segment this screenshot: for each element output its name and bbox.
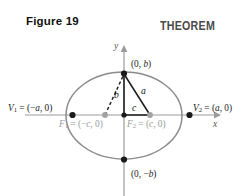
point-covertex-top	[121, 70, 127, 76]
point-vertex-right	[186, 112, 192, 118]
label-vertex-left: V1 = (−a, 0)	[8, 104, 52, 114]
point-focus-right	[147, 112, 153, 118]
y-axis-arrowhead	[121, 45, 128, 52]
point-vertex-left	[69, 112, 75, 118]
y-axis-label: y	[114, 42, 118, 52]
label-covertex-bottom: (0, −b)	[131, 170, 156, 179]
label-focus-right: F2 = (c, 0)	[127, 120, 166, 130]
ellipse-theorem-figure: Figure 19 THEOREM y x (0, b) (0, −b) V1 …	[0, 0, 245, 196]
ellipse-diagram-canvas	[0, 0, 245, 196]
segment-a-hypotenuse	[124, 74, 150, 115]
triangle-label-b: b	[114, 90, 119, 100]
label-vertex-right: V2 = (a, 0)	[193, 104, 232, 114]
label-covertex-top: (0, b)	[131, 60, 151, 69]
triangle-label-c: c	[132, 103, 136, 113]
label-focus-left: F1 = (−c, 0)	[59, 120, 103, 130]
point-focus-left	[102, 112, 108, 118]
x-axis-label: x	[213, 120, 217, 130]
point-origin	[121, 112, 126, 117]
point-covertex-bottom	[121, 156, 127, 162]
triangle-label-a: a	[141, 86, 146, 96]
